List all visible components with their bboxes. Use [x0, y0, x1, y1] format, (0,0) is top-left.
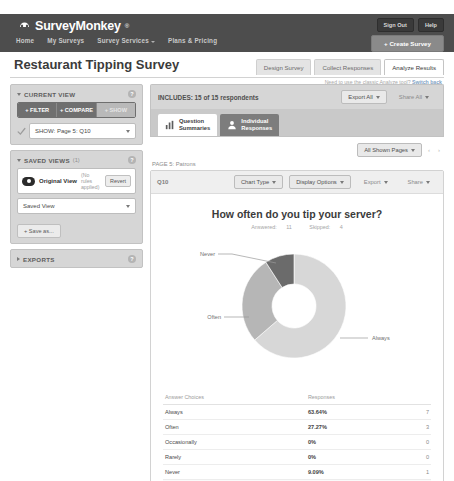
main-navigation: Home My Surveys Survey Services Plans & …: [16, 37, 217, 44]
bar-chart-icon: [165, 120, 175, 130]
chevron-down-icon: [272, 181, 276, 184]
includes-respondents-text: INCLUDES: 15 of 15 respondents: [158, 94, 259, 101]
cell-response-percent: 0%: [306, 435, 409, 450]
page-filter-select[interactable]: All Shown Pages: [357, 143, 422, 157]
callout-line-never: [232, 254, 276, 263]
sign-out-button[interactable]: Sign Out: [377, 18, 414, 32]
question-card-header: Q10 Chart Type Display Options Export: [151, 171, 443, 194]
next-page-button[interactable]: ›: [436, 147, 442, 153]
response-table-wrap: Answer Choices Responses Always63.64%7Of…: [151, 384, 443, 481]
panel-exports-header[interactable]: EXPORTS ?: [11, 250, 142, 267]
page-title: Restaurant Tipping Survey: [14, 57, 179, 72]
show-rule-row: SHOW: Page 5: Q10: [17, 123, 136, 139]
checkmark-icon: [17, 127, 26, 136]
create-survey-button[interactable]: + Create Survey: [371, 35, 444, 52]
nav-item-plans-pricing[interactable]: Plans & Pricing: [168, 37, 217, 44]
chart-type-button[interactable]: Chart Type: [234, 175, 283, 189]
view-rule-buttons: + FILTER + COMPARE + SHOW: [17, 102, 136, 118]
question-export-button[interactable]: Export: [357, 175, 395, 189]
cell-response-percent: 9.09%: [306, 465, 409, 480]
nav-item-my-surveys[interactable]: My Surveys: [47, 37, 84, 44]
saved-view-original-name: Original View: [39, 178, 77, 184]
table-row: Never9.09%1: [163, 465, 431, 480]
cell-answer-choice: Never: [163, 465, 306, 480]
question-share-button[interactable]: Share: [401, 175, 437, 189]
saved-view-original-row[interactable]: Original View (No rules applied) Revert: [17, 168, 136, 194]
share-all-button[interactable]: Share All: [392, 90, 436, 104]
panel-saved-views: SAVED VIEWS (1) ? Original View (No rule…: [10, 150, 143, 244]
cell-response-percent: 63.64%: [306, 405, 409, 420]
chevron-down-icon: [126, 205, 130, 208]
panel-current-view-header[interactable]: CURRENT VIEW ?: [11, 85, 142, 102]
answered-meta: Answered: 11: [247, 224, 296, 230]
cell-response-count: 0: [409, 450, 431, 465]
save-as-button[interactable]: + Save as...: [17, 224, 61, 238]
chart-type-label: Chart Type: [241, 179, 269, 185]
slice-label-often: Often: [207, 314, 221, 320]
panel-saved-views-title: SAVED VIEWS: [24, 157, 70, 164]
help-button[interactable]: Help: [418, 18, 444, 32]
question-mark-icon[interactable]: ?: [128, 90, 136, 98]
survey-section-tabs: Design Survey Collect Responses Analyze …: [256, 59, 444, 75]
chevron-down-icon: [126, 130, 130, 133]
chevron-down-icon: [151, 41, 155, 43]
panel-current-view-title: CURRENT VIEW: [24, 91, 75, 98]
show-page-select[interactable]: SHOW: Page 5: Q10: [29, 123, 136, 139]
col-count: [409, 390, 431, 405]
monkey-logo-icon: [18, 21, 31, 32]
chevron-down-icon: [384, 181, 388, 184]
donut-chart-svg: Never Often Always: [172, 234, 422, 384]
nav-item-home[interactable]: Home: [16, 37, 34, 44]
question-number: Q10: [157, 179, 168, 185]
display-options-button[interactable]: Display Options: [289, 175, 351, 189]
saved-view-original-sub: (No rules applied): [81, 172, 101, 190]
person-icon: [227, 120, 237, 130]
cell-response-count: 7: [409, 405, 431, 420]
subtab-question-summaries[interactable]: QuestionSummaries: [158, 114, 217, 136]
nav-item-survey-services[interactable]: Survey Services: [97, 37, 155, 44]
includes-bar: INCLUDES: 15 of 15 respondents Export Al…: [150, 84, 444, 109]
question-export-label: Export: [364, 179, 381, 185]
question-mark-icon[interactable]: ?: [128, 156, 136, 164]
cell-answer-choice: Rarely: [163, 450, 306, 465]
revert-button[interactable]: Revert: [105, 175, 131, 187]
question-text: How often do you tip your server?: [151, 194, 443, 220]
panel-current-view: CURRENT VIEW ? + FILTER + COMPARE + SHOW…: [10, 84, 143, 145]
question-card: Q10 Chart Type Display Options Export: [150, 170, 444, 481]
cell-answer-choice: Occasionally: [163, 435, 306, 450]
saved-view-select[interactable]: Saved View: [17, 198, 136, 214]
add-filter-button[interactable]: + FILTER: [18, 103, 57, 117]
page-root: SurveyMonkey ® Home My Surveys Survey Se…: [0, 0, 454, 481]
cell-response-count: 1: [409, 465, 431, 480]
cell-answer-choice: Often: [163, 420, 306, 435]
page-section-label: PAGE 5: Patrons: [150, 161, 444, 170]
tab-design-survey[interactable]: Design Survey: [256, 59, 312, 75]
tab-analyze-results[interactable]: Analyze Results: [384, 59, 444, 75]
cell-answer-choice: Always: [163, 405, 306, 420]
cell-response-percent: 27.27%: [306, 420, 409, 435]
skipped-meta: Skipped: 4: [305, 224, 346, 230]
prev-page-button[interactable]: ‹: [426, 147, 432, 153]
question-mark-icon[interactable]: ?: [128, 255, 136, 263]
title-divider: [10, 77, 444, 78]
add-compare-button[interactable]: + COMPARE: [57, 103, 96, 117]
slice-label-always: Always: [372, 335, 390, 341]
table-header-row: Answer Choices Responses: [163, 390, 431, 405]
brand-logo-group[interactable]: SurveyMonkey ®: [18, 19, 129, 33]
export-all-label: Export All: [348, 94, 373, 100]
nav-item-survey-services-label: Survey Services: [97, 37, 149, 44]
panel-saved-views-header[interactable]: SAVED VIEWS (1) ?: [11, 151, 142, 168]
page-filter-bar: All Shown Pages ‹ ›: [150, 137, 444, 161]
main-column: INCLUDES: 15 of 15 respondents Export Al…: [150, 84, 444, 481]
brand-trademark: ®: [125, 23, 129, 29]
chevron-down-icon: [425, 96, 429, 99]
tab-collect-responses[interactable]: Collect Responses: [314, 59, 381, 75]
export-all-button[interactable]: Export All: [341, 90, 387, 104]
subtab-individual-responses[interactable]: IndividualResponses: [220, 114, 279, 136]
subtab-question-summaries-label: QuestionSummaries: [179, 118, 210, 132]
eye-icon: [22, 177, 35, 186]
cell-response-percent: 0%: [306, 450, 409, 465]
table-row: Always63.64%7: [163, 405, 431, 420]
panel-exports: EXPORTS ?: [10, 249, 143, 268]
chevron-down-icon: [411, 149, 415, 152]
